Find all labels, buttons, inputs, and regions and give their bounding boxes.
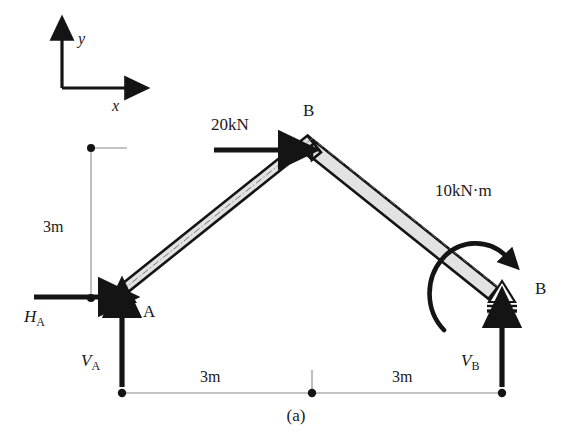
height-dimension-dot-top — [87, 144, 95, 152]
height-dimension-label: 3m — [43, 218, 64, 235]
reaction-ha-subscript: A — [36, 315, 45, 329]
support-a-label: A — [143, 302, 156, 321]
point-load-label: 20kN — [211, 115, 249, 134]
span-dimension-dot-left — [118, 389, 126, 397]
x-axis-label: x — [111, 97, 119, 114]
figure-container: y x 3m B 20kN 10kN — [0, 0, 573, 434]
span-dimension-dot-right — [498, 389, 506, 397]
support-b-label: B — [535, 279, 546, 298]
moment-label: 10kN·m — [435, 181, 492, 200]
reaction-vb-subscript: B — [471, 359, 479, 373]
figure-caption: (a) — [287, 406, 306, 425]
span-dimension-dot-center — [308, 389, 316, 397]
y-axis-label: y — [76, 30, 86, 48]
reaction-va-subscript: A — [91, 359, 100, 373]
frame-diagram-svg: y x 3m B 20kN 10kN — [0, 0, 573, 434]
apex-node-label: B — [303, 101, 314, 120]
span-right-label: 3m — [392, 368, 413, 385]
span-left-label: 3m — [200, 368, 221, 385]
